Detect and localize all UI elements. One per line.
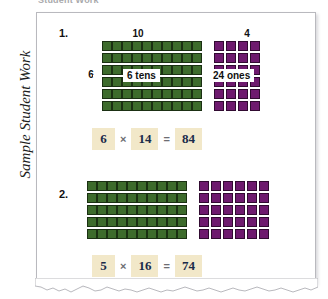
tens-square bbox=[137, 205, 147, 215]
ones-square bbox=[250, 53, 260, 63]
ones-square bbox=[259, 181, 269, 191]
tens-square bbox=[102, 41, 112, 51]
problem-1-factor1: 6 bbox=[92, 128, 115, 150]
tens-square bbox=[112, 89, 122, 99]
problem-1-factor2: 14 bbox=[131, 128, 158, 150]
tens-square bbox=[182, 65, 192, 75]
tens-array-row bbox=[102, 53, 202, 63]
problem-1-multiply-operator: × bbox=[120, 133, 126, 145]
tens-square bbox=[177, 193, 187, 203]
tens-square bbox=[177, 181, 187, 191]
problem-1-ones-callout: 24 ones bbox=[209, 69, 254, 82]
tens-square bbox=[142, 89, 152, 99]
tens-square bbox=[157, 229, 167, 239]
tens-square bbox=[102, 89, 112, 99]
tens-square bbox=[157, 205, 167, 215]
tens-square bbox=[122, 89, 132, 99]
ones-square bbox=[226, 41, 236, 51]
tens-square bbox=[117, 205, 127, 215]
tens-square bbox=[127, 217, 137, 227]
ones-square bbox=[250, 89, 260, 99]
ones-square bbox=[214, 89, 224, 99]
tens-square bbox=[117, 229, 127, 239]
tens-array-row bbox=[87, 229, 187, 239]
problem-2: 2. bbox=[37, 163, 317, 285]
ones-square bbox=[223, 181, 233, 191]
tens-square bbox=[102, 101, 112, 111]
problem-2-number: 2. bbox=[59, 188, 68, 200]
tens-square bbox=[172, 65, 182, 75]
tens-square bbox=[167, 205, 177, 215]
tens-square bbox=[97, 193, 107, 203]
tens-square bbox=[97, 217, 107, 227]
ones-array-row bbox=[199, 205, 269, 215]
tens-square bbox=[132, 101, 142, 111]
tens-array-row bbox=[102, 101, 202, 111]
problem-2-multiply-operator: × bbox=[120, 260, 126, 272]
tens-square bbox=[102, 65, 112, 75]
tens-array-row bbox=[87, 217, 187, 227]
ones-square bbox=[214, 41, 224, 51]
tens-square bbox=[142, 41, 152, 51]
ones-array-row bbox=[199, 229, 269, 239]
tens-array-row bbox=[87, 205, 187, 215]
tens-square bbox=[112, 101, 122, 111]
ones-square bbox=[235, 229, 245, 239]
tens-square bbox=[167, 229, 177, 239]
tens-square bbox=[112, 41, 122, 51]
ones-square bbox=[235, 193, 245, 203]
tens-square bbox=[112, 65, 122, 75]
tens-square bbox=[157, 181, 167, 191]
tens-square bbox=[172, 41, 182, 51]
tens-square bbox=[182, 101, 192, 111]
tens-square bbox=[97, 229, 107, 239]
tens-square bbox=[87, 181, 97, 191]
ones-square bbox=[211, 193, 221, 203]
tens-square bbox=[102, 53, 112, 63]
cut-off-text-strip: Student Work bbox=[38, 0, 124, 6]
ones-square bbox=[226, 53, 236, 63]
problem-1-tens-callout: 6 tens bbox=[123, 69, 160, 82]
tens-square bbox=[132, 53, 142, 63]
tens-square bbox=[127, 181, 137, 191]
tens-square bbox=[117, 181, 127, 191]
ones-square bbox=[223, 205, 233, 215]
tens-square bbox=[162, 89, 172, 99]
ones-square bbox=[211, 229, 221, 239]
ones-square bbox=[199, 229, 209, 239]
tens-square bbox=[137, 229, 147, 239]
tens-square bbox=[167, 181, 177, 191]
ones-square bbox=[235, 217, 245, 227]
tens-square bbox=[97, 181, 107, 191]
tens-square bbox=[172, 89, 182, 99]
tens-square bbox=[177, 229, 187, 239]
tens-square bbox=[147, 181, 157, 191]
ones-array-row bbox=[214, 41, 260, 51]
ones-square bbox=[199, 193, 209, 203]
tens-square bbox=[137, 193, 147, 203]
tens-array-row bbox=[87, 181, 187, 191]
tens-square bbox=[107, 181, 117, 191]
tens-square bbox=[152, 41, 162, 51]
tens-square bbox=[167, 217, 177, 227]
tens-square bbox=[182, 77, 192, 87]
ones-array-row bbox=[199, 217, 269, 227]
problem-2-factor2: 16 bbox=[131, 255, 158, 277]
tens-square bbox=[192, 89, 202, 99]
ones-square bbox=[247, 181, 257, 191]
torn-paper-edge bbox=[35, 278, 318, 298]
tens-square bbox=[147, 217, 157, 227]
ones-square bbox=[214, 53, 224, 63]
tens-square bbox=[137, 181, 147, 191]
ones-array-row bbox=[199, 193, 269, 203]
tens-array-row bbox=[102, 41, 202, 51]
tens-array-row bbox=[102, 89, 202, 99]
problem-2-factor1: 5 bbox=[92, 255, 115, 277]
ones-square bbox=[235, 205, 245, 215]
tens-square bbox=[162, 41, 172, 51]
ones-square bbox=[211, 217, 221, 227]
tens-square bbox=[182, 89, 192, 99]
problem-2-equation: 5 × 16 = 74 bbox=[92, 255, 202, 277]
tens-square bbox=[87, 229, 97, 239]
ones-square bbox=[259, 229, 269, 239]
